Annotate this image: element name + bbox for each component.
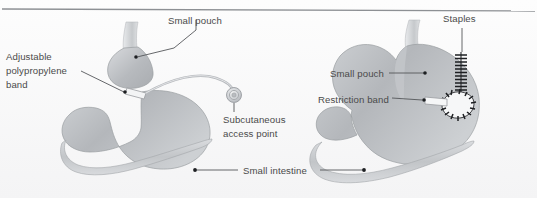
pointer-dot-band bbox=[123, 90, 127, 94]
pointer-dot-small-pouch-right bbox=[423, 71, 427, 75]
pointer-dot-small-intestine-right bbox=[362, 168, 366, 172]
pointer-dot-restriction-band bbox=[422, 98, 426, 102]
restriction-band bbox=[425, 97, 447, 106]
label-adjustable-polypropylene-band-line1: Adjustable bbox=[6, 51, 52, 62]
label-small-intestine: Small intestine bbox=[243, 165, 307, 176]
label-adjustable-polypropylene-band-line2: polypropylene bbox=[6, 65, 67, 76]
label-adjustable-polypropylene-band-line3: band bbox=[6, 79, 28, 90]
figure-canvas: Small pouch Adjustable polypropylene ban… bbox=[0, 0, 537, 198]
label-subcutaneous-access-point-line2: access point bbox=[223, 128, 278, 139]
label-small-pouch-right: Small pouch bbox=[330, 68, 384, 79]
label-small-pouch-left: Small pouch bbox=[168, 15, 222, 26]
pointer-dot-small-intestine-left bbox=[193, 168, 197, 172]
bariatric-surgery-figure: Small pouch Adjustable polypropylene ban… bbox=[0, 0, 537, 198]
label-staples: Staples bbox=[443, 13, 476, 24]
label-subcutaneous-access-point-line1: Subcutaneous bbox=[223, 114, 286, 125]
label-restriction-band: Restriction band bbox=[318, 94, 389, 105]
access-port-center bbox=[232, 93, 236, 97]
